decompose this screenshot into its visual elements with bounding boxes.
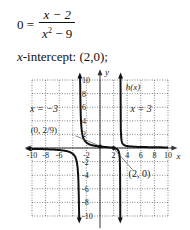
y-tick-label: 8: [82, 90, 86, 99]
y-tick-label: -10: [82, 212, 93, 221]
x-tick-label: -6: [56, 151, 63, 160]
x-axis-arrow-icon: [171, 146, 177, 151]
x-intercept-leader: [115, 150, 133, 170]
x-tick-label: 10: [164, 151, 172, 160]
y-tick-label: -6: [82, 185, 89, 194]
rational-function-graph: xy-10-8-6-2246810108642-2-4-6-8-10h(x)x …: [0, 0, 190, 230]
y-axis-label: y: [104, 67, 109, 77]
x-tick-label: 2: [112, 151, 116, 160]
y-tick-label: 6: [82, 103, 86, 112]
x-axis-label: x: [175, 151, 180, 161]
y-tick-label: 10: [82, 76, 90, 85]
y-intercept-label: (0, 2/9): [31, 125, 58, 135]
y-tick-label: 4: [82, 117, 86, 126]
y-tick-label: -2: [82, 158, 89, 167]
y-intercept-point: [98, 144, 102, 148]
x-tick-label: 8: [152, 151, 156, 160]
x-intercept-label: (2, 0): [129, 168, 151, 180]
right-branch-up-arrow-icon: [118, 73, 123, 79]
asymptote-label-left: x = −3: [29, 103, 58, 114]
x-tick-label: 6: [139, 151, 143, 160]
left-branch-down-arrow-icon: [77, 217, 82, 223]
y-tick-label: -8: [82, 198, 89, 207]
x-intercept-point: [112, 146, 116, 150]
x-tick-label: 4: [125, 151, 129, 160]
function-label: h(x): [126, 82, 141, 92]
asymptote-label-right: x = 3: [130, 103, 152, 114]
middle-branch-down-arrow-icon: [118, 217, 123, 223]
x-tick-label: -8: [42, 151, 49, 160]
x-tick-label: -10: [27, 151, 38, 160]
y-tick-label: -4: [82, 171, 89, 180]
y-axis-arrow-icon: [98, 69, 103, 75]
